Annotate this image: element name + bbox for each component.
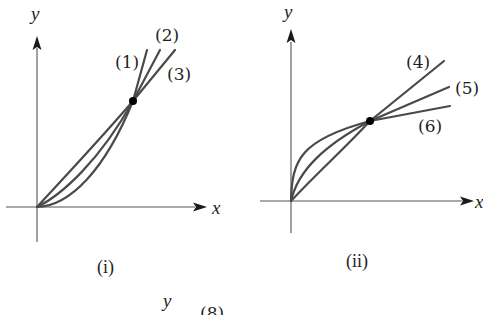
x-axis-label-i: x [211,197,221,218]
x-axis-arrow-icon [460,197,474,206]
intersection-point-ii [366,117,374,125]
curve-label-3: (3) [167,64,191,84]
y-axis-label-partial: y [161,290,172,311]
x-axis-label-ii: x [474,191,483,212]
curve-label-8: (8) [200,303,224,315]
x-axis-arrow-icon [193,203,207,212]
y-axis-label-i: y [29,3,40,24]
partial-panel: y (8) [161,290,224,315]
y-axis-arrow-icon [33,36,42,50]
caption-ii: (ii) [346,251,368,272]
curve-label-6: (6) [418,116,442,136]
diagram-canvas: y x (1) (2) (3) (i) y x (4) (5) (6) (ii)… [0,0,483,315]
intersection-point-i [129,97,137,105]
y-axis-arrow-icon [287,29,296,43]
curve-label-4: (4) [406,52,430,72]
y-axis-label-ii: y [282,1,293,22]
curve-label-2: (2) [155,25,179,45]
curve-label-5: (5) [455,78,479,98]
caption-i: (i) [97,257,114,278]
panel-ii: y x (4) (5) (6) (ii) [260,1,483,272]
curve-3 [37,50,175,207]
curve-1 [37,50,147,207]
curve-label-1: (1) [115,52,139,72]
panel-i: y x (1) (2) (3) (i) [6,3,221,278]
